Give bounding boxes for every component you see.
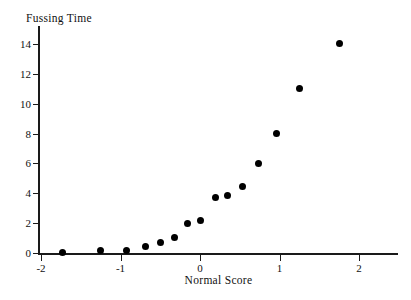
y-tick-mark [33, 134, 39, 135]
y-tick-mark [33, 74, 39, 75]
data-point [255, 160, 262, 167]
y-tick-mark [33, 253, 39, 254]
y-tick-label: 14 [0, 38, 31, 50]
y-axis-title: Fussing Time [26, 12, 92, 24]
x-axis-title-text: Normal Score [159, 274, 253, 286]
data-point [184, 220, 191, 227]
x-tick-mark [41, 255, 42, 261]
data-point [171, 234, 178, 241]
y-tick-mark [33, 44, 39, 45]
y-tick-label: 10 [0, 98, 31, 110]
x-tick-label: 1 [277, 262, 283, 274]
data-point [142, 243, 149, 250]
x-tick-mark [280, 255, 281, 261]
x-axis-line [38, 253, 398, 255]
x-axis-title: Normal Score [0, 274, 411, 286]
y-tick-mark [33, 104, 39, 105]
data-point [336, 40, 343, 47]
y-tick-label: 4 [0, 187, 31, 199]
y-tick-mark [33, 193, 39, 194]
x-tick-mark [359, 255, 360, 261]
data-point [296, 85, 303, 92]
y-tick-label: 2 [0, 217, 31, 229]
data-point [239, 183, 246, 190]
x-tick-mark [200, 255, 201, 261]
y-axis-line [38, 26, 40, 255]
y-tick-label: 6 [0, 157, 31, 169]
data-point [224, 192, 231, 199]
data-point [212, 194, 219, 201]
data-point [197, 217, 204, 224]
x-tick-label: 2 [356, 262, 362, 274]
x-tick-label: -1 [116, 262, 125, 274]
data-point [273, 130, 280, 137]
y-tick-label: 0 [0, 247, 31, 259]
data-point [123, 247, 130, 254]
x-tick-label: -2 [36, 262, 45, 274]
scatter-plot-figure: Fussing Time 02468101214 -2-1012 Normal … [0, 0, 411, 300]
data-point [157, 239, 164, 246]
y-tick-label: 8 [0, 128, 31, 140]
data-point [59, 249, 66, 256]
y-tick-mark [33, 163, 39, 164]
x-tick-mark [121, 255, 122, 261]
y-tick-label: 12 [0, 68, 31, 80]
y-tick-mark [33, 223, 39, 224]
x-tick-label: 0 [197, 262, 203, 274]
